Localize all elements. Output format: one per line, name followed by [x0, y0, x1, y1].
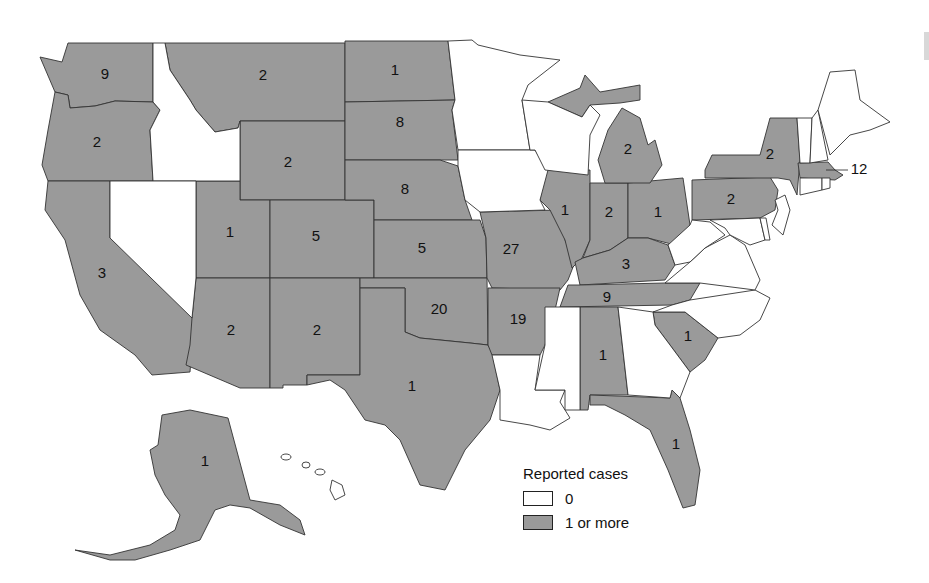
label-sc: 1 [684, 327, 692, 344]
legend-swatch-white [523, 491, 553, 506]
legend-label-zero: 0 [565, 490, 573, 507]
state-colorado [270, 200, 374, 278]
label-co: 5 [312, 227, 320, 244]
label-mt: 2 [259, 66, 267, 83]
label-sd: 8 [396, 113, 404, 130]
label-nm: 2 [313, 321, 321, 338]
state-wyoming [240, 121, 345, 200]
label-fl: 1 [672, 435, 680, 452]
label-wy: 2 [284, 153, 292, 170]
label-mi: 2 [624, 140, 632, 157]
label-nd: 1 [391, 61, 399, 78]
label-ut: 1 [226, 223, 234, 240]
state-iowa [458, 150, 548, 212]
label-oh: 1 [654, 203, 662, 220]
label-ok: 20 [431, 300, 448, 317]
label-il: 1 [561, 201, 569, 218]
label-in: 2 [605, 203, 613, 220]
state-north-dakota [345, 41, 455, 102]
legend-item-zero: 0 [523, 486, 629, 510]
label-ca: 3 [98, 264, 106, 281]
state-kansas [374, 220, 487, 278]
state-rhode-island [822, 178, 830, 190]
label-ks: 5 [418, 239, 426, 256]
legend: Reported cases 0 1 or more [523, 465, 629, 534]
state-hawaii [281, 454, 345, 500]
state-massachusetts [798, 162, 843, 180]
label-ky: 3 [622, 255, 630, 272]
label-or: 2 [93, 133, 101, 150]
legend-swatch-gray [523, 515, 553, 530]
label-tn: 9 [603, 288, 611, 305]
state-maine [818, 70, 890, 155]
label-ar: 19 [510, 310, 527, 327]
label-ny: 2 [766, 145, 774, 162]
label-al: 1 [599, 346, 607, 363]
label-pa: 2 [727, 190, 735, 207]
legend-label-one-or-more: 1 or more [565, 514, 629, 531]
label-az: 2 [227, 321, 235, 338]
label-mo: 27 [503, 240, 520, 257]
label-ma: 12 [851, 160, 868, 177]
label-ak: 1 [201, 452, 209, 469]
state-alaska [75, 410, 305, 560]
us-choropleth-map: 9 2 3 2 2 1 5 2 2 1 8 8 5 20 1 27 19 1 2… [0, 0, 929, 583]
legend-title: Reported cases [523, 465, 629, 482]
state-vermont [797, 118, 812, 163]
edge-artifact [924, 32, 929, 60]
label-ne: 8 [401, 180, 409, 197]
label-tx: 1 [408, 377, 416, 394]
legend-item-one-or-more: 1 or more [523, 510, 629, 534]
state-connecticut [800, 178, 822, 195]
label-wa: 9 [101, 65, 109, 82]
state-south-dakota [345, 100, 458, 160]
